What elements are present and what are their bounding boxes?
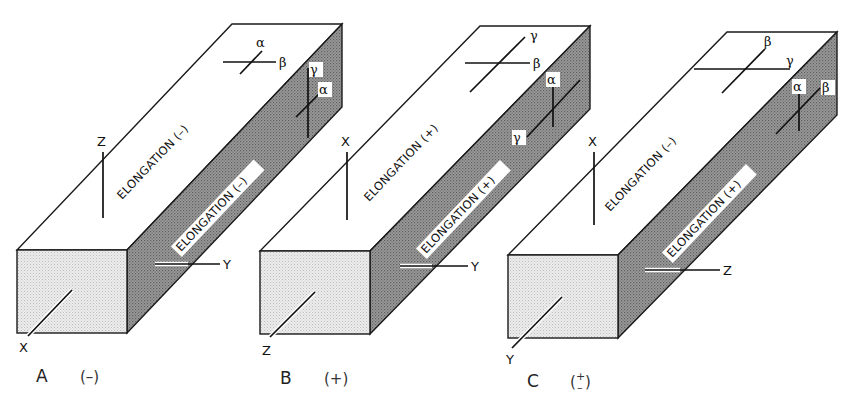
front-face (508, 255, 618, 338)
top-indicatrix-long-label: β (764, 34, 772, 49)
svg-text:): ) (585, 373, 591, 391)
front-axis-label: X (19, 340, 28, 355)
svg-text:–: – (577, 381, 583, 394)
side-indicatrix-short-label: α (319, 82, 328, 97)
vertical-axis-label: X (341, 134, 350, 149)
top-indicatrix-short-label: β (533, 56, 541, 71)
side-indicatrix-long-label: β (822, 80, 830, 95)
svg-text:(: ( (570, 373, 576, 391)
top-indicatrix-short-label: α (256, 35, 265, 50)
side-indicatrix-short-label: α (547, 72, 556, 87)
elongation-diagram: Z X Y ELONGATION (–) ELONGATION (–) α β … (0, 0, 848, 397)
top-indicatrix-short-label: γ (786, 53, 794, 68)
top-indicatrix-long-label: β (279, 55, 287, 70)
side-indicatrix-long-label: γ (310, 62, 318, 77)
front-axis-label: Y (505, 352, 514, 367)
front-axis-label: Z (262, 343, 271, 358)
side-indicatrix-short-label: α (793, 79, 802, 94)
vertical-axis-label: X (588, 134, 597, 149)
panel-sign: (+) (324, 370, 348, 388)
side-axis-label: Y (470, 259, 479, 274)
panel-caption: B (280, 368, 292, 388)
side-axis-label: Y (222, 257, 231, 272)
panel-caption: C (527, 371, 539, 391)
top-indicatrix-long-label: γ (530, 28, 538, 43)
panel-sign: (–) (80, 368, 99, 386)
panel-sign: ( + – ) (570, 370, 591, 394)
vertical-axis-label: Z (97, 134, 106, 149)
side-indicatrix-long-label: γ (513, 130, 521, 145)
side-axis-label: Z (723, 263, 732, 278)
panel-caption: A (36, 366, 48, 386)
